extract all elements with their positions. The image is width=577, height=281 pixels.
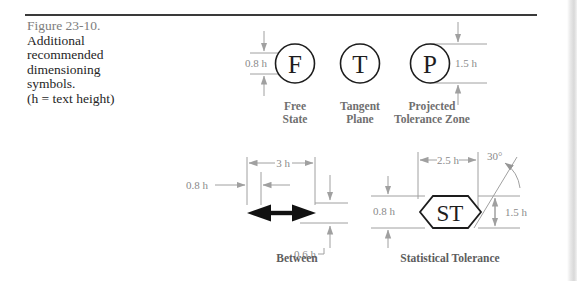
projected-dim-label: 1.5 h: [455, 57, 478, 69]
st-left-dim-label: 0.8 h: [373, 205, 396, 217]
tangent-plane-glyph: T: [352, 51, 367, 78]
between-arrowhead-left: [247, 205, 271, 222]
tangent-plane-label-line2: Plane: [346, 113, 373, 125]
free-state-symbol-group: 0.8 h F Free State: [245, 31, 315, 125]
statistical-tolerance-caption: Statistical Tolerance: [400, 252, 499, 264]
statistical-tolerance-glyph: ST: [437, 201, 464, 226]
figure-page: Figure 23-10. Additional recommended dim…: [0, 0, 577, 281]
free-state-label-line2: State: [283, 113, 308, 125]
between-width-label: 3 h: [276, 157, 290, 169]
projected-tolerance-glyph: P: [423, 51, 437, 78]
free-state-dim-label: 0.8 h: [245, 57, 268, 69]
between-caption: Between: [276, 252, 318, 264]
st-angle-label: 30°: [487, 150, 502, 162]
free-state-glyph: F: [288, 51, 302, 78]
technical-symbols-diagram: 0.8 h F Free State T Tangent Plane 1.5 h…: [0, 0, 577, 281]
tangent-plane-symbol-group: T Tangent Plane: [340, 44, 380, 125]
st-width-label: 2.5 h: [437, 154, 460, 166]
between-left-dim-label: 0.8 h: [186, 179, 209, 191]
between-figure-group: 3 h 0.8 h 0.6 h Between: [186, 157, 348, 264]
projected-label-line2: Tolerance Zone: [394, 113, 470, 125]
between-height-leader: [318, 248, 324, 254]
free-state-label-line1: Free: [284, 100, 306, 112]
statistical-tolerance-figure-group: 0.8 h 2.5 h 1.5 h 30° ST Statistical Tol…: [371, 150, 528, 264]
st-angle-arc: [505, 163, 520, 188]
st-height-label: 1.5 h: [505, 206, 528, 218]
projected-tolerance-symbol-group: 1.5 h P Projected Tolerance Zone: [394, 22, 487, 125]
between-arrowhead-right: [292, 205, 316, 222]
projected-label-line1: Projected: [408, 100, 456, 113]
tangent-plane-label-line1: Tangent: [340, 100, 380, 113]
